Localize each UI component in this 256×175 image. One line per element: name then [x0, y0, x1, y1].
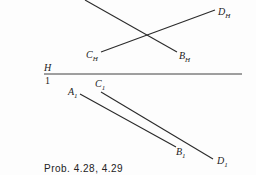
label-b-h: BH — [179, 50, 191, 64]
projection-diagram: DH CH BH H 1 A1 C1 B1 D1 Prob. 4.28, 4.2… — [0, 0, 256, 175]
figure-caption: Prob. 4.28, 4.29 — [44, 163, 123, 174]
folding-label-h: H — [43, 62, 52, 73]
line-ab-aux — [80, 94, 176, 147]
label-c-1: C1 — [95, 78, 105, 92]
line-cd-aux — [101, 92, 213, 159]
label-a-1: A1 — [67, 86, 78, 100]
label-d-h: DH — [217, 6, 231, 20]
label-c-h: CH — [86, 49, 99, 63]
folding-label-1: 1 — [45, 75, 50, 86]
line-cd-horizontal — [101, 10, 215, 52]
diagram-svg: DH CH BH H 1 A1 C1 B1 D1 — [0, 0, 256, 175]
line-ab-horizontal — [85, 0, 177, 52]
label-b-1: B1 — [176, 146, 186, 160]
label-d-1: D1 — [216, 155, 228, 169]
